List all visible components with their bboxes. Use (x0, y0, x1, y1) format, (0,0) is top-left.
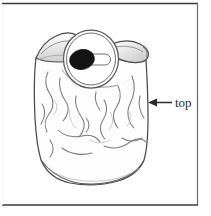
top-label: top (175, 95, 192, 110)
bag-illustration: top (0, 0, 211, 216)
left-arrow-icon (148, 99, 172, 107)
top-annotation: top (148, 95, 192, 110)
bag-opening (64, 30, 119, 88)
figure-frame: top (0, 0, 211, 216)
